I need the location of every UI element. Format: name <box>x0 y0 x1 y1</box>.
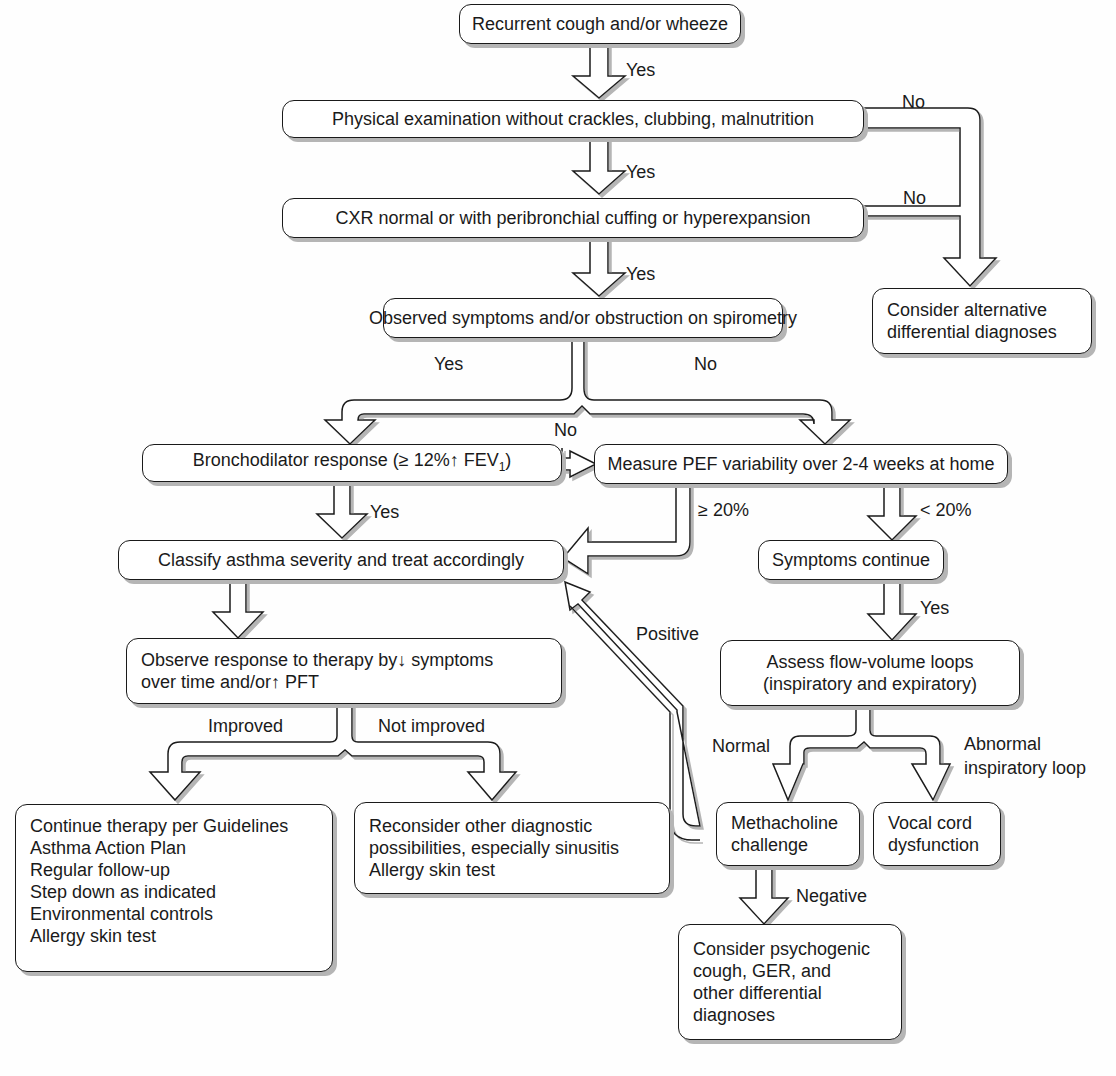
node-measure-pef: Measure PEF variability over 2-4 weeks a… <box>594 444 1008 484</box>
node-text: Recurrent cough and/or wheeze <box>472 13 728 35</box>
arrow-positive-to-classify <box>565 582 700 826</box>
node-line: Consider psychogenic <box>693 938 887 960</box>
node-observe-response: Observe response to therapy by↓ symptoms… <box>126 638 562 704</box>
arrow-pef-to-symptoms <box>868 482 916 540</box>
node-text: CXR normal or with peribronchial cuffing… <box>336 207 811 229</box>
bronchodilator-text: Bronchodilator response (≥ 12%↑ FEV <box>193 450 499 470</box>
node-line: Observe response to therapy by↓ symptoms <box>141 649 547 671</box>
node-text: Observed symptoms and/or obstruction on … <box>369 307 797 329</box>
arrow-broncho-to-classify <box>317 480 367 538</box>
node-flow-volume-loops: Assess flow-volume loops (inspiratory an… <box>720 640 1020 706</box>
node-methacholine-challenge: Methacholine challenge <box>716 802 860 866</box>
node-observed-symptoms: Observed symptoms and/or obstruction on … <box>383 298 783 338</box>
node-text: Symptoms continue <box>772 549 930 571</box>
node-text: Classify asthma severity and treat accor… <box>158 549 524 571</box>
node-line: Vocal cord <box>888 812 986 834</box>
node-line: Allergy skin test <box>30 925 318 947</box>
label-yes-start: Yes <box>626 60 655 80</box>
node-text: Physical examination without crackles, c… <box>332 108 814 130</box>
label-negative: Negative <box>796 886 867 906</box>
arrow-pef-to-classify <box>563 482 690 574</box>
arrow-broncho-to-pef <box>562 448 596 477</box>
node-psychogenic-cough: Consider psychogenic cough, GER, and oth… <box>678 924 902 1040</box>
label-no-cxr: No <box>903 188 926 208</box>
node-line: Allergy skin test <box>369 859 655 881</box>
node-line: Continue therapy per Guidelines <box>30 815 318 837</box>
node-vocal-cord-dysfunction: Vocal cord dysfunction <box>873 802 1001 866</box>
node-line: challenge <box>731 834 845 856</box>
label-improved: Improved <box>208 716 283 736</box>
node-line: (inspiratory and expiratory) <box>763 673 977 695</box>
node-line: over time and/or↑ PFT <box>141 671 547 693</box>
label-broncho-yes: Yes <box>370 502 399 522</box>
label-symptoms-yes: Yes <box>920 598 949 618</box>
node-line: differential diagnoses <box>887 321 1077 343</box>
node-physical-exam: Physical examination without crackles, c… <box>282 100 864 138</box>
label-no-exam: No <box>902 92 925 112</box>
node-continue-therapy: Continue therapy per Guidelines Asthma A… <box>15 804 333 972</box>
arrow-cxr-to-observed <box>573 236 625 296</box>
node-line: diagnoses <box>693 1004 887 1026</box>
label-yes-exam: Yes <box>626 162 655 182</box>
label-abnormal: Abnormal <box>964 734 1041 754</box>
arrow-observed-split <box>325 338 850 444</box>
node-symptoms-continue: Symptoms continue <box>758 540 944 580</box>
arrow-no-to-alternative <box>862 108 996 286</box>
node-alternative-diagnoses: Consider alternative differential diagno… <box>872 288 1092 354</box>
arrow-classify-to-observe <box>213 580 263 638</box>
label-not-improved: Not improved <box>378 716 485 736</box>
label-broncho-no: No <box>554 420 577 440</box>
arrow-flow-split <box>773 704 950 800</box>
node-reconsider-diagnostic: Reconsider other diagnostic possibilitie… <box>354 802 670 894</box>
node-line: Step down as indicated <box>30 881 318 903</box>
node-line: Regular follow-up <box>30 859 318 881</box>
node-classify-asthma: Classify asthma severity and treat accor… <box>118 540 564 580</box>
label-normal: Normal <box>712 736 770 756</box>
node-line: Reconsider other diagnostic <box>369 815 655 837</box>
bronchodilator-close: ) <box>505 450 511 470</box>
node-line: other differential <box>693 982 887 1004</box>
label-inspiratory-loop: inspiratory loop <box>964 758 1086 778</box>
node-bronchodilator: Bronchodilator response (≥ 12%↑ FEV1) <box>142 444 562 482</box>
label-yes-cxr: Yes <box>626 264 655 284</box>
node-cxr: CXR normal or with peribronchial cuffing… <box>282 198 864 238</box>
label-observed-yes: Yes <box>434 354 463 374</box>
node-line: Environmental controls <box>30 903 318 925</box>
label-pef-ge20: ≥ 20% <box>698 500 749 520</box>
node-line: cough, GER, and <box>693 960 887 982</box>
arrow-start-to-exam <box>573 42 625 98</box>
node-line: possibilities, especially sinusitis <box>369 837 655 859</box>
node-line: Asthma Action Plan <box>30 837 318 859</box>
node-text: Bronchodilator response (≥ 12%↑ FEV1) <box>193 449 512 478</box>
node-line: Consider alternative <box>887 299 1077 321</box>
arrow-symptoms-to-flow <box>868 580 916 640</box>
arrow-methacholine-to-psychogenic <box>740 864 788 924</box>
node-recurrent-cough: Recurrent cough and/or wheeze <box>459 4 741 44</box>
label-pef-lt20: < 20% <box>920 500 972 520</box>
arrow-exam-to-cxr <box>573 136 625 194</box>
label-observed-no: No <box>694 354 717 374</box>
node-line: Methacholine <box>731 812 845 834</box>
node-line: Assess flow-volume loops <box>766 651 973 673</box>
label-positive: Positive <box>636 624 699 644</box>
node-line: dysfunction <box>888 834 986 856</box>
asthma-diagnosis-flowchart: Recurrent cough and/or wheeze Physical e… <box>0 0 1116 1076</box>
node-text: Measure PEF variability over 2-4 weeks a… <box>607 453 994 475</box>
